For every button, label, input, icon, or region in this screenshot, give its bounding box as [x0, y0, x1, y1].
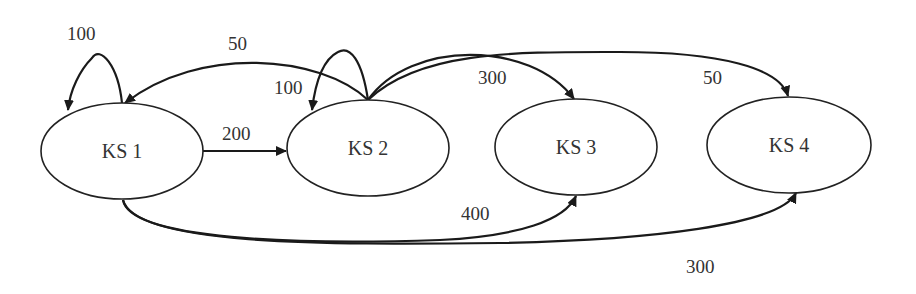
node-label: KS 2: [348, 137, 389, 159]
node-label: KS 1: [102, 140, 143, 162]
edge-ks1-to-ks3: [123, 196, 576, 242]
node-ks3: KS 3: [495, 99, 657, 195]
edge-label-ks1-ks2: 200: [222, 123, 251, 144]
edge-label-ks2-ks3: 300: [478, 67, 507, 88]
node-ks2: KS 2: [287, 100, 449, 196]
node-label: KS 4: [769, 134, 810, 156]
node-label: KS 3: [556, 136, 597, 158]
edge-label-ks2-ks4: 50: [703, 67, 722, 88]
edge-label-ks1-ks3: 400: [461, 203, 490, 224]
edge-label-ks1-ks4: 300: [686, 256, 715, 277]
edge-ks2-to-ks1: [125, 63, 368, 103]
edge-label-ks1-ks1: 100: [67, 23, 96, 44]
node-ks4: KS 4: [707, 97, 871, 193]
node-ks1: KS 1: [41, 103, 203, 199]
edge-ks1-to-ks4: [123, 193, 796, 244]
edge-label-ks2-ks1: 50: [228, 33, 247, 54]
edge-ks1-to-ks1: [68, 54, 122, 110]
state-diagram: KS 1 KS 2 KS 3 KS 4 100 200 50 100 300 5…: [0, 0, 916, 294]
edge-label-ks2-ks2: 100: [274, 77, 303, 98]
